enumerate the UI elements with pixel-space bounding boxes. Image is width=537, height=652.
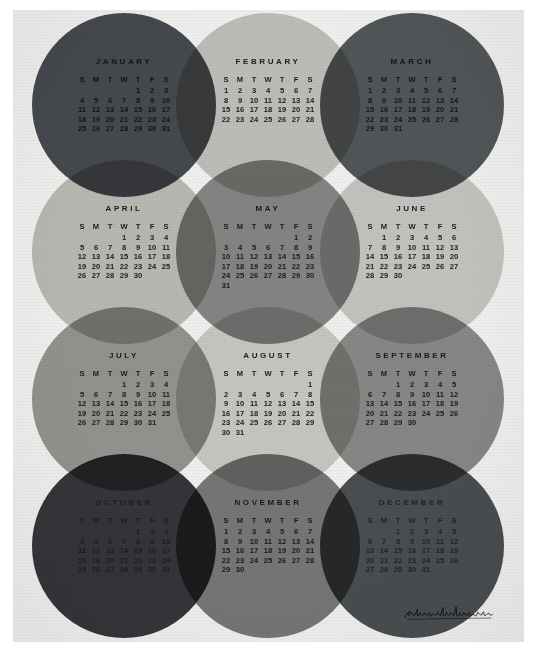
day-cell: 22: [363, 115, 377, 125]
weekday-header-cell: W: [117, 75, 131, 87]
calendar-poster: JANUARYSMTWTFS12345678910111213141516171…: [0, 0, 537, 652]
day-cell: 25: [159, 409, 173, 419]
day-cell: 6: [103, 96, 117, 106]
weekday-header-row: SMTWTFS: [219, 222, 317, 234]
day-cell: 10: [391, 96, 405, 106]
day-cell: 5: [275, 528, 289, 538]
day-cell: 26: [419, 115, 433, 125]
day-cell: [405, 125, 419, 135]
week-row: 78910111213: [363, 243, 461, 253]
month-name: JUNE: [352, 204, 472, 213]
day-cell: 2: [377, 87, 391, 97]
day-cell: [159, 419, 173, 429]
day-cell: [275, 234, 289, 244]
weekday-header-cell: T: [275, 516, 289, 528]
month-calendar-table: SMTWTFS123456789101112131415161718192021…: [363, 369, 461, 428]
day-cell: 26: [89, 125, 103, 135]
day-cell: 18: [159, 253, 173, 263]
day-cell: 29: [289, 272, 303, 282]
weekday-header-cell: S: [219, 222, 233, 234]
day-cell: 25: [261, 115, 275, 125]
day-cell: 20: [89, 409, 103, 419]
day-cell: [275, 281, 289, 291]
day-cell: 9: [131, 390, 145, 400]
day-cell: 2: [145, 528, 159, 538]
day-cell: 27: [103, 566, 117, 576]
day-cell: 20: [447, 253, 461, 263]
day-cell: 14: [103, 400, 117, 410]
artist-signature: [402, 602, 498, 624]
day-cell: 8: [391, 390, 405, 400]
day-cell: [363, 381, 377, 391]
day-cell: 18: [75, 556, 89, 566]
weekday-header-row: SMTWTFS: [219, 369, 317, 381]
day-cell: 28: [363, 272, 377, 282]
day-cell: 25: [433, 409, 447, 419]
day-cell: [247, 381, 261, 391]
week-row: 24252627282930: [219, 272, 317, 282]
day-cell: [247, 234, 261, 244]
weekday-header-row: SMTWTFS: [363, 75, 461, 87]
week-row: 15161718192021: [363, 106, 461, 116]
weekday-header-cell: F: [289, 516, 303, 528]
month-calendar-table: SMTWTFS123456789101112131415161718192021…: [75, 369, 173, 428]
week-row: 1234567: [219, 528, 317, 538]
weekday-header-cell: T: [419, 516, 433, 528]
day-cell: 11: [261, 96, 275, 106]
day-cell: 9: [377, 96, 391, 106]
week-row: 21222324252627: [363, 262, 461, 272]
weekday-header-row: SMTWTFS: [219, 516, 317, 528]
weekday-header-cell: F: [289, 222, 303, 234]
day-cell: 13: [447, 243, 461, 253]
week-row: 567891011: [75, 390, 173, 400]
day-cell: 20: [261, 262, 275, 272]
day-cell: 24: [219, 272, 233, 282]
day-cell: 10: [247, 96, 261, 106]
day-cell: [145, 272, 159, 282]
week-row: 22232425262728: [219, 115, 317, 125]
day-cell: [419, 419, 433, 429]
day-cell: 24: [145, 262, 159, 272]
day-cell: 12: [261, 400, 275, 410]
weekday-header-cell: T: [103, 369, 117, 381]
day-cell: 11: [233, 253, 247, 263]
weekday-header-cell: S: [447, 222, 461, 234]
day-cell: 6: [103, 537, 117, 547]
day-cell: 10: [247, 537, 261, 547]
day-cell: 1: [219, 87, 233, 97]
day-cell: 17: [419, 400, 433, 410]
day-cell: 31: [219, 281, 233, 291]
day-cell: 15: [219, 106, 233, 116]
day-cell: [103, 87, 117, 97]
day-cell: 14: [303, 537, 317, 547]
day-cell: 21: [363, 262, 377, 272]
day-cell: 10: [233, 400, 247, 410]
week-row: 2345678: [219, 390, 317, 400]
day-cell: 7: [117, 537, 131, 547]
week-row: 14151617181920: [363, 253, 461, 263]
day-cell: [117, 528, 131, 538]
day-cell: 13: [275, 400, 289, 410]
week-row: 9101112131415: [219, 400, 317, 410]
day-cell: 16: [145, 547, 159, 557]
weekday-header-row: SMTWTFS: [363, 516, 461, 528]
day-cell: [433, 272, 447, 282]
day-cell: 4: [75, 96, 89, 106]
day-cell: 12: [75, 400, 89, 410]
month-block-july: JULYSMTWTFS12345678910111213141516171819…: [64, 351, 184, 428]
day-cell: 29: [391, 566, 405, 576]
day-cell: 27: [433, 115, 447, 125]
day-cell: 26: [89, 566, 103, 576]
day-cell: 31: [145, 419, 159, 429]
day-cell: [233, 234, 247, 244]
day-cell: 17: [247, 547, 261, 557]
weekday-header-cell: W: [261, 369, 275, 381]
month-calendar-table: SMTWTFS123456789101112131415161718192021…: [219, 222, 317, 291]
day-cell: 23: [145, 115, 159, 125]
day-cell: 10: [419, 390, 433, 400]
weekday-header-cell: W: [405, 75, 419, 87]
day-cell: 18: [433, 400, 447, 410]
day-cell: 7: [275, 243, 289, 253]
day-cell: 25: [233, 272, 247, 282]
day-cell: 12: [447, 390, 461, 400]
